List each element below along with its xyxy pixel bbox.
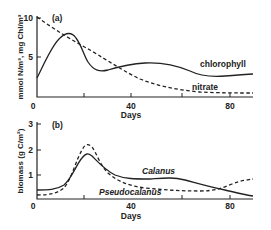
panel-a: 10 5 0 40 80 Days mmol N/m³, mg Chl/m³ (… — [16, 13, 253, 120]
panel-b-label: (b) — [52, 120, 63, 130]
panel-b-xtick-label-0: 0 — [31, 201, 36, 211]
panel-a-xlabel: Days — [121, 110, 142, 120]
label-calanus: Calanus — [142, 166, 175, 176]
panel-b-ylabel: biomass (g C/m²) — [16, 128, 25, 193]
panel-b-ytick-label-2: 2 — [28, 145, 33, 155]
panel-a-label: (a) — [52, 13, 63, 23]
panel-b-ytick-label-3: 3 — [28, 119, 33, 129]
label-chlorophyll: chlorophyll — [200, 59, 246, 69]
panel-a-xtick-label-0: 0 — [31, 101, 36, 111]
label-pseudocalanus: Pseudocalanus — [99, 187, 162, 197]
panel-b-ytick-label-1: 1 — [28, 170, 33, 180]
panel-a-axes — [37, 16, 253, 97]
panel-a-ylabel: mmol N/m³, mg Chl/m³ — [16, 14, 25, 99]
panel-a-ytick-label-5: 5 — [28, 52, 33, 62]
series-chlorophyll — [37, 34, 253, 79]
panel-b-xtick-label-40: 40 — [126, 201, 136, 211]
label-nitrate: nitrate — [192, 82, 218, 92]
panel-b-xtick-label-80: 80 — [225, 201, 235, 211]
figure: 10 5 0 40 80 Days mmol N/m³, mg Chl/m³ (… — [0, 0, 271, 230]
panel-b: 3 2 1 0 40 80 Days biomass (g C/m²) (b) … — [16, 119, 253, 221]
panel-a-xtick-label-80: 80 — [225, 101, 235, 111]
series-nitrate — [37, 17, 253, 93]
panel-b-xlabel: Days — [121, 211, 142, 221]
